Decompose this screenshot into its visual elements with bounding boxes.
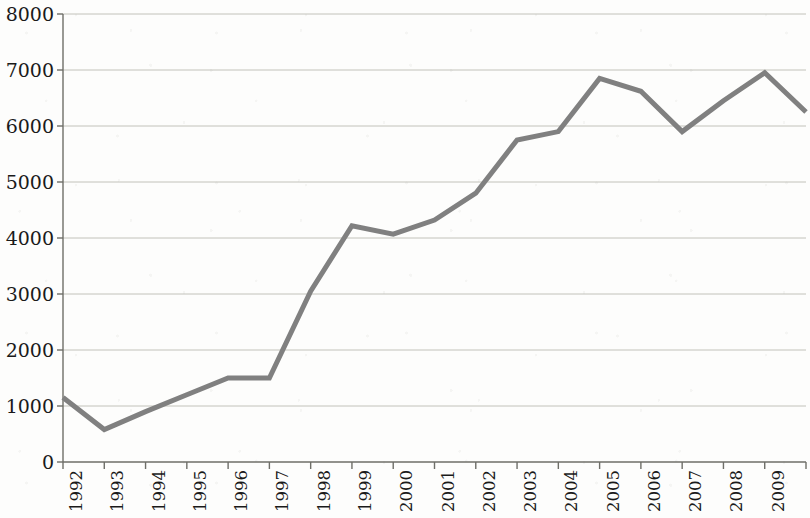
x-axis-tick-label: 1997 [275, 470, 292, 512]
x-axis-tick-label: 2003 [523, 470, 540, 512]
x-axis-tick-label: 1993 [110, 470, 127, 512]
x-tick-mark-group [63, 462, 806, 469]
x-axis-tick-label: 2000 [399, 470, 416, 512]
x-axis-tick-label: 2005 [606, 470, 623, 512]
x-axis-tick-label: 2007 [688, 470, 705, 512]
plot-area [0, 0, 810, 518]
x-axis-tick-label: 1995 [193, 470, 210, 512]
x-axis-tick-label: 2004 [564, 470, 581, 512]
x-axis-tick-label: 1992 [69, 470, 86, 512]
x-axis-tick-label: 2002 [482, 470, 499, 512]
x-axis-tick-label: 1999 [358, 470, 375, 512]
x-axis-tick-label: 2009 [771, 470, 788, 512]
x-axis-tick-label: 1994 [152, 470, 169, 512]
x-axis-tick-label: 1996 [234, 470, 251, 512]
y-tick-mark-group [57, 14, 63, 462]
x-axis-tick-label: 2001 [441, 470, 458, 512]
line-chart-figure: 8000 7000 6000 5000 4000 3000 2000 1000 … [0, 0, 810, 518]
gridline-group [63, 14, 806, 406]
x-axis-tick-label: 1998 [317, 470, 334, 512]
x-axis-tick-label: 2008 [729, 470, 746, 512]
x-axis-tick-label: 2006 [647, 470, 664, 512]
